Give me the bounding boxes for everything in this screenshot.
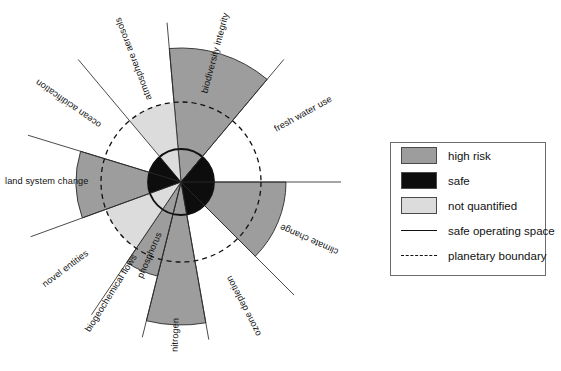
legend-item: not quantified (391, 193, 545, 218)
legend-label: safe (448, 175, 470, 187)
legend: high risksafenot quantifiedsafe operatin… (390, 142, 546, 276)
sector-label: climate change (278, 222, 340, 257)
legend-label: high risk (448, 150, 491, 162)
legend-line-swatch (401, 247, 437, 264)
solid-line-icon (401, 230, 437, 231)
sector-label: nitrogen (170, 318, 181, 352)
legend-item: planetary boundary (391, 243, 545, 268)
sector-label: novel entities (40, 248, 90, 289)
sector-fill-group (76, 48, 286, 325)
legend-label: safe operating space (448, 225, 555, 237)
sector-wedge (169, 48, 267, 182)
legend-item: safe operating space (391, 218, 545, 243)
legend-swatch (401, 172, 437, 189)
sector-label: biogeochemical flows (83, 252, 139, 333)
sector-label: fresh water use (272, 94, 333, 134)
radial-boundaries-chart: biodiversity integrityfresh water usecli… (0, 0, 370, 371)
sector-label: land system change (5, 176, 89, 186)
legend-line-swatch (401, 222, 437, 239)
sector-label: ozone depletion (224, 274, 263, 338)
legend-label: not quantified (448, 200, 517, 212)
legend-swatch (401, 197, 437, 214)
legend-label: planetary boundary (448, 250, 546, 262)
dashed-line-icon (401, 255, 437, 256)
legend-swatch (401, 147, 437, 164)
legend-item: high risk (391, 143, 545, 168)
planetary-boundaries-figure: biodiversity integrityfresh water usecli… (0, 0, 561, 371)
legend-item: safe (391, 168, 545, 193)
sector-label: ocean acidification (34, 77, 103, 130)
sector-label: atmosphere aerosols (113, 16, 154, 102)
